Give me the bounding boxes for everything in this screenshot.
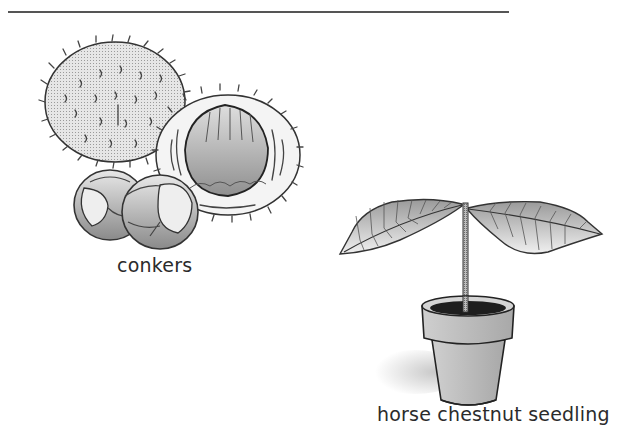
caption-conkers: conkers [117,254,192,276]
conkers-illustration [39,35,303,249]
seedling-illustration [340,199,602,405]
right-leaf-icon [468,202,602,254]
conker-right-icon [122,175,198,249]
nut-icon [185,105,268,196]
caption-horse-chestnut-seedling: horse chestnut seedling [377,403,610,425]
left-leaf-icon [340,199,462,254]
illustration-canvas [0,0,641,431]
